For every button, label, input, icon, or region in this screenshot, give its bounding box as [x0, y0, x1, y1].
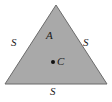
triangle-shape — [0, 0, 112, 102]
centroid-dot-icon — [51, 60, 55, 64]
geometry-figure: A S S S C — [0, 0, 112, 102]
area-label: A — [46, 30, 53, 41]
centroid-label: C — [57, 56, 64, 67]
side-label-left: S — [11, 37, 17, 48]
side-label-right: S — [83, 37, 89, 48]
triangle-polygon — [5, 5, 107, 84]
side-label-bottom: S — [50, 86, 56, 97]
